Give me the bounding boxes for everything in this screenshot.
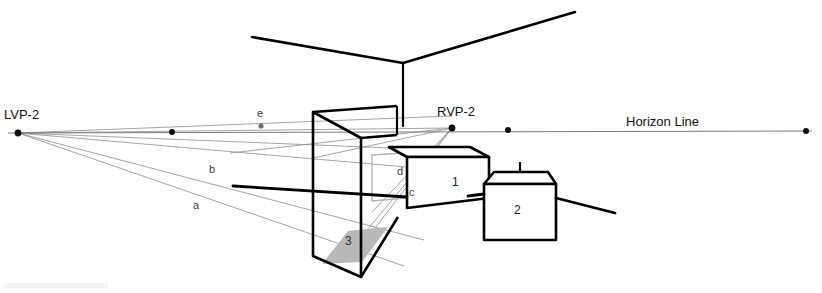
- perspective-diagram-canvas: LVP-2 RVP-2 Horizon Line e b a c d 1 2 3: [0, 0, 822, 293]
- ray-e-dot: [258, 123, 263, 128]
- left-thick-ray: [233, 186, 407, 197]
- label-ray-a: a: [193, 200, 199, 211]
- box2-left-stub-ray: [468, 194, 484, 196]
- right-thick-ray: [556, 198, 615, 213]
- rvp-dot: [449, 125, 456, 132]
- label-ray-b: b: [209, 164, 215, 175]
- label-ray-e: e: [257, 108, 263, 119]
- label-horizon-line: Horizon Line: [626, 115, 699, 128]
- ceiling-structure: [252, 12, 575, 126]
- label-ray-d: d: [397, 166, 403, 177]
- lvp-dot: [15, 130, 22, 137]
- label-box-2: 2: [514, 204, 521, 216]
- perspective-drawing: [0, 0, 822, 293]
- label-left-vanishing-point: LVP-2: [4, 108, 39, 121]
- box-1-front-face: [407, 157, 489, 208]
- page-edge-artifact: [4, 283, 108, 288]
- box-3-top-back-edge: [313, 106, 397, 112]
- ceiling-left-edge: [252, 37, 403, 63]
- box-3-floor-shade: [322, 227, 388, 264]
- horizon-dot-far-right: [803, 128, 809, 134]
- construction-rays-lvp: [18, 116, 452, 266]
- label-box-3: 3: [345, 235, 352, 247]
- label-box-1: 1: [452, 176, 459, 188]
- horizon-dot-inner-right: [505, 127, 511, 133]
- horizon-dot-inner-left: [169, 129, 175, 135]
- label-right-vanishing-point: RVP-2: [437, 105, 475, 118]
- ray-b-line: [18, 133, 452, 171]
- ceiling-right-edge: [403, 12, 575, 63]
- box-3-right-top-edge: [361, 135, 397, 138]
- box-2-top-face: [484, 172, 556, 184]
- ray-a-line: [18, 133, 424, 240]
- box-1-top-face: [389, 147, 489, 157]
- box-2-shape: [484, 162, 556, 240]
- label-ray-c: c: [409, 187, 415, 198]
